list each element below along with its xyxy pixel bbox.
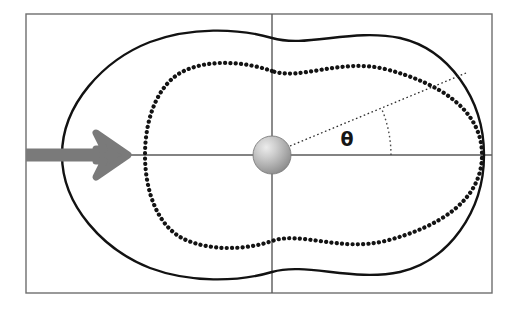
theta-label: θ	[340, 128, 353, 150]
scattering-center-sphere	[253, 136, 291, 174]
arrow-shaft	[26, 149, 102, 162]
scattering-diagram-figure: θ	[0, 0, 516, 311]
diagram-canvas: θ	[0, 0, 516, 311]
sphere-body	[253, 136, 291, 174]
